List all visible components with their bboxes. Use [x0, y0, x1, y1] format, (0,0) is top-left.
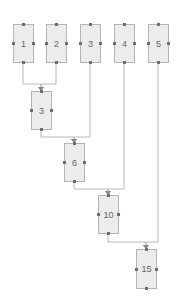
port-top-icon[interactable]: [145, 248, 148, 251]
port-top-icon[interactable]: [89, 23, 92, 26]
port-right-icon[interactable]: [83, 161, 86, 164]
port-left-icon[interactable]: [12, 42, 15, 45]
port-top-icon[interactable]: [55, 23, 58, 26]
port-bottom-icon[interactable]: [145, 287, 148, 290]
edge-n1-to-s3: [23, 63, 41, 91]
port-left-icon[interactable]: [30, 109, 33, 112]
port-right-icon[interactable]: [65, 42, 68, 45]
node-5[interactable]: 5: [148, 24, 169, 63]
port-left-icon[interactable]: [97, 213, 100, 216]
node-2[interactable]: 2: [46, 24, 67, 63]
port-top-icon[interactable]: [73, 142, 76, 145]
port-left-icon[interactable]: [113, 42, 116, 45]
node-label: 6: [72, 158, 77, 168]
edge-n2-to-s3: [41, 63, 56, 91]
port-right-icon[interactable]: [50, 109, 53, 112]
port-left-icon[interactable]: [45, 42, 48, 45]
node-1[interactable]: 1: [13, 24, 34, 63]
port-left-icon[interactable]: [63, 161, 66, 164]
edge-s3-to-s6: [41, 130, 74, 143]
port-left-icon[interactable]: [79, 42, 82, 45]
port-bottom-icon[interactable]: [107, 232, 110, 235]
port-bottom-icon[interactable]: [73, 180, 76, 183]
node-label: 15: [141, 264, 151, 274]
node-3[interactable]: 3: [80, 24, 101, 63]
port-left-icon[interactable]: [147, 42, 150, 45]
node-label: 10: [103, 210, 113, 220]
port-top-icon[interactable]: [40, 90, 43, 93]
port-bottom-icon[interactable]: [40, 128, 43, 131]
port-bottom-icon[interactable]: [123, 61, 126, 64]
port-bottom-icon[interactable]: [89, 61, 92, 64]
port-right-icon[interactable]: [133, 42, 136, 45]
port-bottom-icon[interactable]: [22, 61, 25, 64]
port-bottom-icon[interactable]: [157, 61, 160, 64]
port-left-icon[interactable]: [135, 268, 138, 271]
sum-node-3[interactable]: 3: [31, 91, 52, 130]
port-top-icon[interactable]: [123, 23, 126, 26]
port-bottom-icon[interactable]: [55, 61, 58, 64]
node-label: 3: [88, 39, 93, 49]
node-label: 2: [54, 39, 59, 49]
port-top-icon[interactable]: [157, 23, 160, 26]
sum-node-15[interactable]: 15: [136, 249, 157, 289]
edge-n5-to-s15: [146, 63, 158, 249]
port-right-icon[interactable]: [155, 268, 158, 271]
node-4[interactable]: 4: [114, 24, 135, 63]
node-label: 3: [39, 106, 44, 116]
edge-n4-to-s10: [108, 63, 124, 195]
edge-s6-to-s10: [74, 182, 108, 195]
port-right-icon[interactable]: [99, 42, 102, 45]
node-label: 4: [122, 39, 127, 49]
port-right-icon[interactable]: [167, 42, 170, 45]
port-top-icon[interactable]: [107, 194, 110, 197]
sum-node-6[interactable]: 6: [64, 143, 85, 182]
node-label: 1: [21, 39, 26, 49]
port-top-icon[interactable]: [22, 23, 25, 26]
edge-s10-to-s15: [108, 234, 146, 249]
port-right-icon[interactable]: [117, 213, 120, 216]
sum-node-10[interactable]: 10: [98, 195, 119, 234]
diagram-canvas: 1 2 3 4 5 3 6 10 15: [0, 0, 179, 307]
edge-n3-to-s6: [74, 63, 90, 143]
port-right-icon[interactable]: [32, 42, 35, 45]
node-label: 5: [156, 39, 161, 49]
